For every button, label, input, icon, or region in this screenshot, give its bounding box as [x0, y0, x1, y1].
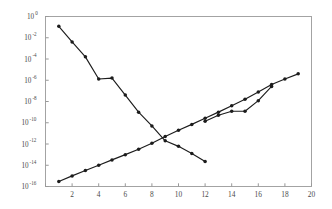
svg-text:10: 10 — [24, 77, 32, 85]
svg-text:10: 10 — [27, 13, 35, 21]
data-point-marker — [270, 85, 274, 89]
data-point-marker — [137, 148, 141, 152]
data-point-marker — [230, 110, 234, 114]
data-point-marker — [177, 128, 181, 132]
data-point-marker — [84, 169, 88, 173]
data-point-marker — [190, 152, 194, 156]
data-point-marker — [70, 174, 74, 178]
y-axis-labels: 10010-210-410-610-810-1010-1210-1410-16 — [21, 10, 38, 191]
data-point-marker — [230, 104, 234, 108]
x-tick-label: 8 — [150, 190, 154, 199]
data-point-marker — [110, 76, 114, 80]
x-tick-label: 6 — [123, 190, 127, 199]
data-point-marker — [203, 160, 207, 164]
data-point-marker — [257, 90, 261, 94]
svg-text:-12: -12 — [30, 137, 37, 143]
svg-text:-16: -16 — [30, 180, 37, 186]
data-point-marker — [283, 77, 287, 81]
svg-text:10: 10 — [21, 162, 29, 170]
data-point-marker — [110, 158, 114, 162]
data-point-marker — [124, 153, 128, 157]
x-tick-label: 14 — [228, 190, 236, 199]
svg-text:-8: -8 — [32, 95, 37, 101]
svg-text:10: 10 — [21, 183, 29, 191]
data-point-marker — [137, 110, 141, 114]
data-point-marker — [57, 180, 61, 184]
data-point-marker — [217, 110, 221, 114]
data-point-marker — [203, 119, 207, 123]
figure-container: 10010-210-410-610-810-1010-1210-1410-16 … — [0, 0, 332, 209]
data-point-marker — [124, 93, 128, 97]
x-tick-label: 4 — [97, 190, 101, 199]
data-point-marker — [97, 164, 101, 168]
data-point-marker — [177, 145, 181, 149]
data-point-marker — [57, 25, 61, 29]
x-tick-label: 2 — [70, 190, 74, 199]
data-point-marker — [150, 141, 154, 145]
data-point-marker — [84, 55, 88, 59]
log-error-plot: 10010-210-410-610-810-1010-1210-1410-16 … — [0, 0, 332, 209]
svg-text:10: 10 — [24, 56, 32, 64]
data-point-marker — [97, 77, 101, 81]
data-point-marker — [243, 98, 247, 102]
svg-text:10: 10 — [24, 34, 32, 42]
svg-text:-14: -14 — [30, 159, 37, 165]
data-point-marker — [70, 40, 74, 44]
svg-text:10: 10 — [21, 119, 29, 127]
data-point-marker — [190, 123, 194, 127]
svg-text:-4: -4 — [32, 52, 37, 58]
figure-background — [0, 0, 332, 209]
x-tick-label: 12 — [201, 190, 209, 199]
svg-text:10: 10 — [24, 98, 32, 106]
data-point-marker — [150, 124, 154, 128]
x-tick-label: 20 — [308, 190, 316, 199]
svg-text:10: 10 — [21, 141, 29, 149]
svg-text:-10: -10 — [30, 116, 37, 122]
svg-text:-6: -6 — [32, 74, 37, 80]
data-point-marker — [257, 99, 261, 103]
data-point-marker — [163, 135, 167, 139]
x-tick-label: 16 — [255, 190, 263, 199]
x-tick-label: 18 — [281, 190, 289, 199]
svg-text:-2: -2 — [32, 31, 37, 37]
data-point-marker — [243, 110, 247, 114]
data-point-marker — [296, 72, 300, 76]
x-tick-label: 10 — [175, 190, 183, 199]
data-point-marker — [217, 114, 221, 118]
data-point-marker — [163, 139, 167, 143]
